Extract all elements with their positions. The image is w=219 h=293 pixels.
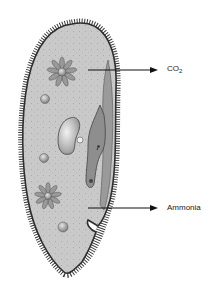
ammonia-label: Ammonia [167,203,201,212]
food-vacuole [58,222,68,232]
co2-label-subscript: 2 [179,68,182,74]
paramecium-diagram: CO2 Ammonia [0,0,219,293]
micronucleus [77,137,83,143]
co2-label: CO2 [167,64,182,74]
food-vacuole [41,95,50,104]
food-vacuole [40,154,49,163]
gullet-vacuole [89,179,93,183]
co2-label-base: CO [167,64,179,73]
paramecium-illustration [0,0,219,293]
